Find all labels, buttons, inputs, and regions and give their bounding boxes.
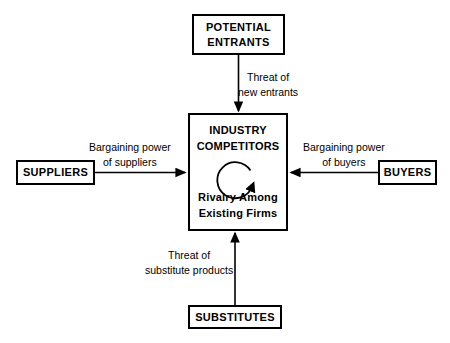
threat-substitutes-line2: substitute products bbox=[145, 263, 233, 278]
label-threat-of-new-entrants: Threat of new entrants bbox=[238, 70, 298, 99]
bargaining-buyers-line1: Bargaining power bbox=[303, 140, 385, 155]
box-suppliers: SUPPLIERS bbox=[16, 160, 95, 185]
substitutes-label: SUBSTITUTES bbox=[195, 310, 275, 325]
bargaining-suppliers-line2: of suppliers bbox=[89, 155, 171, 170]
industry-competitors-subtitle-line1: Rivalry Among bbox=[190, 190, 286, 206]
potential-entrants-line1: POTENTIAL bbox=[206, 20, 271, 35]
box-potential-entrants: POTENTIAL ENTRANTS bbox=[192, 14, 285, 55]
porter-five-forces-diagram: POTENTIAL ENTRANTS SUPPLIERS BUYERS SUBS… bbox=[0, 0, 450, 343]
buyers-label: BUYERS bbox=[384, 165, 432, 180]
box-buyers: BUYERS bbox=[378, 160, 437, 185]
box-industry-competitors: INDUSTRY COMPETITORS Rivalry Among Exist… bbox=[188, 113, 288, 231]
industry-competitors-title-line2: COMPETITORS bbox=[190, 139, 286, 155]
industry-competitors-title: INDUSTRY COMPETITORS bbox=[190, 123, 286, 155]
threat-substitutes-line1: Threat of bbox=[145, 248, 233, 263]
bargaining-suppliers-line1: Bargaining power bbox=[89, 140, 171, 155]
threat-new-entrants-line2: new entrants bbox=[238, 85, 298, 100]
label-threat-of-substitute-products: Threat of substitute products bbox=[145, 248, 233, 277]
industry-competitors-subtitle-line2: Existing Firms bbox=[190, 206, 286, 222]
threat-new-entrants-line1: Threat of bbox=[238, 70, 298, 85]
label-bargaining-power-of-buyers: Bargaining power of buyers bbox=[303, 140, 385, 169]
industry-competitors-subtitle: Rivalry Among Existing Firms bbox=[190, 190, 286, 222]
label-bargaining-power-of-suppliers: Bargaining power of suppliers bbox=[89, 140, 171, 169]
potential-entrants-line2: ENTRANTS bbox=[207, 35, 269, 50]
bargaining-buyers-line2: of buyers bbox=[303, 155, 385, 170]
industry-competitors-title-line1: INDUSTRY bbox=[190, 123, 286, 139]
suppliers-label: SUPPLIERS bbox=[23, 165, 88, 180]
box-substitutes: SUBSTITUTES bbox=[188, 305, 282, 329]
